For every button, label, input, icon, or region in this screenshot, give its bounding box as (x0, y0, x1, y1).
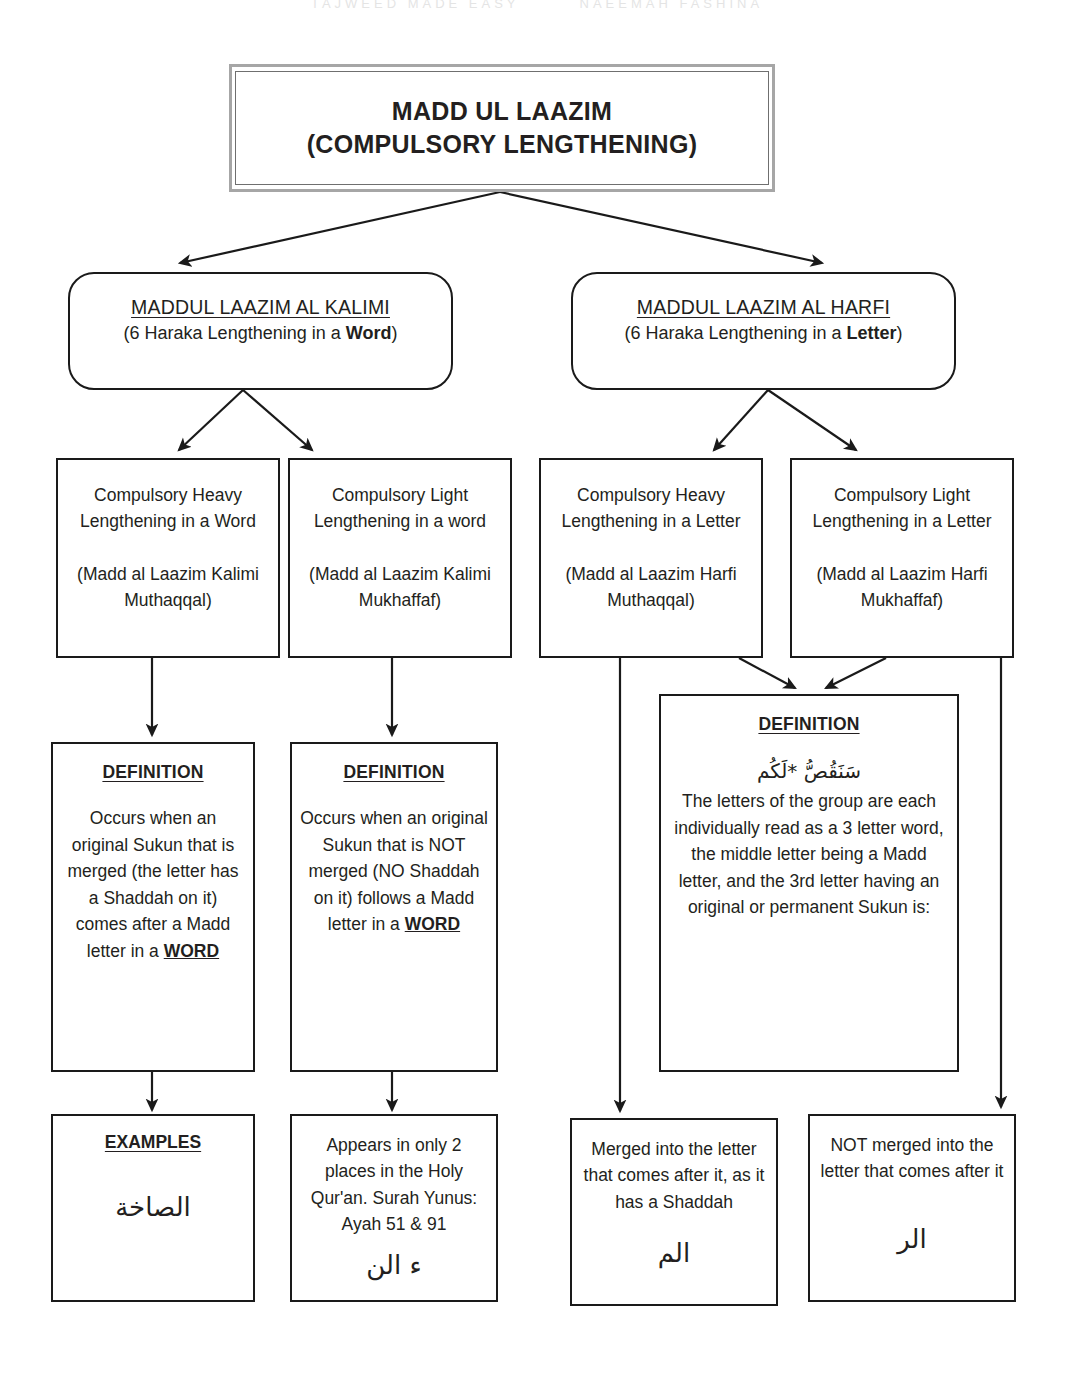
arrow-kalimi-to-heavy (179, 390, 243, 450)
type-harfi-heavy-box: Compulsory Heavy Lengthening in a Letter… (539, 458, 763, 658)
definition-kalimi-light-text: Occurs when an original Sukun that is NO… (292, 805, 496, 938)
arrow-title-to-harfi (500, 192, 822, 263)
result-harfi-heavy-arabic: الم (658, 1235, 690, 1271)
definition-kalimi-heavy-text: Occurs when an original Sukun that is me… (53, 805, 253, 965)
category-harfi-box: MADDUL LAAZIM AL HARFI (6 Haraka Lengthe… (571, 272, 956, 390)
category-harfi-subtitle: (6 Haraka Lengthening in a Letter) (624, 321, 902, 345)
result-harfi-light-box: NOT merged into the letter that comes af… (808, 1114, 1016, 1302)
arrow-harfi-heavy-to-definition (739, 658, 795, 688)
category-kalimi-box: MADDUL LAAZIM AL KALIMI (6 Haraka Length… (68, 272, 453, 390)
page-header-right: NAEEMAH FASHINA (580, 0, 764, 14)
note-kalimi-light-box: Appears in only 2 places in the Holy Qur… (290, 1114, 498, 1302)
definition-kalimi-heavy-box: DEFINITION Occurs when an original Sukun… (51, 742, 255, 1072)
definition-harfi-text: سَنَقُصُّ *لَكُم The letters of the grou… (661, 757, 957, 921)
type-harfi-light-box: Compulsory Light Lengthening in a Letter… (790, 458, 1014, 658)
examples-kalimi-heavy-arabic: الصاخة (115, 1189, 191, 1225)
arrow-harfi-to-heavy (714, 390, 768, 450)
flowchart-page: TAJWEED MADE EASY NAEEMAH FASHINA (0, 0, 1074, 1385)
page-header-left: TAJWEED MADE EASY (311, 0, 520, 14)
result-harfi-light-arabic: الر (897, 1221, 927, 1257)
category-harfi-title: MADDUL LAAZIM AL HARFI (637, 294, 890, 320)
category-harfi-subtitle-pre: (6 Haraka Lengthening in a (624, 323, 846, 343)
type-harfi-heavy-description: Compulsory Heavy Lengthening in a Letter (541, 482, 761, 535)
type-kalimi-light-box: Compulsory Light Lengthening in a word (… (288, 458, 512, 658)
type-harfi-light-name: (Madd al Laazim Harfi Mukhaffaf) (792, 561, 1012, 614)
type-harfi-light-description: Compulsory Light Lengthening in a Letter (792, 482, 1012, 535)
examples-kalimi-heavy-heading: EXAMPLES (105, 1132, 201, 1153)
page-header: TAJWEED MADE EASY NAEEMAH FASHINA (0, 0, 1074, 14)
definition-harfi-heading: DEFINITION (758, 714, 859, 735)
definition-kalimi-light-heading: DEFINITION (343, 762, 444, 783)
chart-title-box: MADD UL LAAZIM (COMPULSORY LENGTHENING) (229, 64, 775, 192)
type-harfi-heavy-name: (Madd al Laazim Harfi Muthaqqal) (541, 561, 761, 614)
chart-title-line1: MADD UL LAAZIM (392, 96, 612, 127)
category-kalimi-title: MADDUL LAAZIM AL KALIMI (131, 294, 390, 320)
category-kalimi-subtitle-post: ) (391, 323, 397, 343)
type-kalimi-light-name: (Madd al Laazim Kalimi Mukhaffaf) (290, 561, 510, 614)
definition-kalimi-heavy-text-body: Occurs when an original Sukun that is me… (67, 808, 238, 961)
note-kalimi-light-arabic: ء الن (366, 1247, 421, 1283)
result-harfi-heavy-box: Merged into the letter that comes after … (570, 1118, 778, 1306)
definition-kalimi-heavy-emphasis: WORD (164, 941, 219, 961)
result-harfi-light-text: NOT merged into the letter that comes af… (810, 1132, 1014, 1185)
arrow-harfi-to-light (768, 390, 856, 450)
type-kalimi-heavy-name: (Madd al Laazim Kalimi Muthaqqal) (58, 561, 278, 614)
arrow-kalimi-to-light (243, 390, 312, 450)
definition-kalimi-light-emphasis: WORD (405, 914, 460, 934)
category-harfi-subtitle-bold: Letter (847, 323, 897, 343)
examples-kalimi-heavy-box: EXAMPLES الصاخة (51, 1114, 255, 1302)
category-kalimi-subtitle-pre: (6 Haraka Lengthening in a (124, 323, 346, 343)
definition-kalimi-light-box: DEFINITION Occurs when an original Sukun… (290, 742, 498, 1072)
definition-harfi-text-body: The letters of the group are each indivi… (674, 791, 943, 917)
type-kalimi-heavy-box: Compulsory Heavy Lengthening in a Word (… (56, 458, 280, 658)
type-kalimi-heavy-description: Compulsory Heavy Lengthening in a Word (58, 482, 278, 535)
chart-title-line2: (COMPULSORY LENGTHENING) (307, 129, 698, 160)
category-kalimi-subtitle-bold: Word (346, 323, 392, 343)
arrow-harfi-light-to-definition (826, 658, 886, 688)
definition-harfi-box: DEFINITION سَنَقُصُّ *لَكُم The letters … (659, 694, 959, 1072)
arrow-title-to-kalimi (180, 192, 500, 263)
definition-kalimi-heavy-heading: DEFINITION (102, 762, 203, 783)
note-kalimi-light-text: Appears in only 2 places in the Holy Qur… (292, 1132, 496, 1237)
category-harfi-subtitle-post: ) (897, 323, 903, 343)
type-kalimi-light-description: Compulsory Light Lengthening in a word (290, 482, 510, 535)
chart-title-inner: MADD UL LAAZIM (COMPULSORY LENGTHENING) (235, 71, 769, 185)
category-kalimi-subtitle: (6 Haraka Lengthening in a Word) (124, 321, 398, 345)
result-harfi-heavy-text: Merged into the letter that comes after … (572, 1136, 776, 1215)
definition-harfi-arabic: سَنَقُصُّ *لَكُم (669, 757, 949, 786)
